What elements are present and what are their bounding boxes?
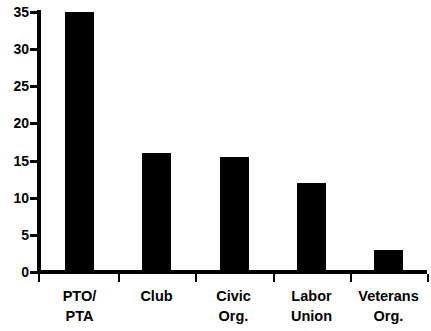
category-label-line-1: Veterans bbox=[350, 286, 427, 306]
category-label-line-2: Union bbox=[273, 306, 350, 326]
category-label-line-2: PTA bbox=[41, 306, 118, 326]
category-label-line-1: Civic bbox=[195, 286, 272, 306]
category-label-line-2: Org. bbox=[350, 306, 427, 326]
bar-chart: 05101520253035 PTO/PTAClubCivicOrg.Labor… bbox=[0, 0, 431, 331]
y-axis-tick bbox=[30, 85, 38, 88]
x-axis-category-label: PTO/PTA bbox=[41, 286, 118, 326]
category-label-line-2: Org. bbox=[195, 306, 272, 326]
category-label-line-1: PTO/ bbox=[41, 286, 118, 306]
bar bbox=[220, 157, 249, 272]
category-label-line-1: Club bbox=[118, 286, 195, 306]
bar bbox=[142, 153, 171, 272]
bar bbox=[374, 250, 403, 272]
bar bbox=[297, 183, 326, 272]
x-axis-category-label: LaborUnion bbox=[273, 286, 350, 326]
category-label-line-1: Labor bbox=[273, 286, 350, 306]
bar bbox=[65, 12, 94, 272]
y-axis-tick bbox=[30, 48, 38, 51]
y-axis-tick bbox=[30, 234, 38, 237]
y-axis-tick bbox=[30, 11, 38, 14]
x-axis-tick bbox=[195, 274, 197, 282]
x-axis-category-label: CivicOrg. bbox=[195, 286, 272, 326]
x-axis-tick bbox=[273, 274, 275, 282]
y-axis-tick bbox=[30, 197, 38, 200]
y-axis-tick bbox=[30, 271, 38, 274]
y-axis-tick bbox=[30, 122, 38, 125]
x-axis-tick bbox=[350, 274, 352, 282]
x-axis-tick bbox=[118, 274, 120, 282]
x-axis-category-label: Club bbox=[118, 286, 195, 306]
x-axis-category-label: VeteransOrg. bbox=[350, 286, 427, 326]
y-axis-tick bbox=[30, 160, 38, 163]
x-axis-tick bbox=[427, 274, 429, 282]
plot-area bbox=[0, 0, 431, 331]
x-axis-tick bbox=[38, 274, 40, 282]
